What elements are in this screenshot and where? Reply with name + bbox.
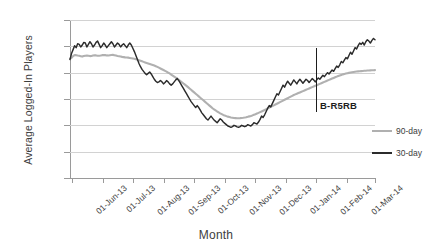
x-tick-mark [164,178,165,183]
x-tick-label: 01-Dec-13 [277,183,313,217]
x-tick-mark [255,178,256,183]
legend-label-90-day: 90-day [396,126,422,136]
x-axis-line [70,178,375,179]
x-tick-label: 01-Jun-13 [94,183,129,216]
x-axis-title: Month [0,228,432,242]
x-tick-mark [347,178,348,183]
legend-item-90-day: 90-day [372,124,432,137]
series-lines [70,20,375,178]
x-tick-mark [103,178,104,183]
legend-label-30-day: 30-day [396,148,422,158]
x-tick-mark [225,178,226,183]
annotation-label: B-R5RB [320,100,357,111]
x-tick-label: 01-Aug-13 [155,183,191,217]
chart-root: Average Logged-In Players Month 24,00026… [0,0,432,248]
x-tick-label: 01-Sep-13 [186,183,222,217]
x-tick-mark [375,178,376,183]
x-tick-mark [194,178,195,183]
legend-swatch-90-day [372,130,392,132]
y-tick-mark [64,178,70,179]
x-tick-label: 01-Jan-14 [307,183,342,216]
plot-area [70,20,375,178]
legend-item-30-day: 30-day [372,146,432,159]
y-axis-title: Average Logged-In Players [22,10,34,190]
x-tick-label: 01-Feb-14 [338,183,374,217]
x-tick-mark [72,178,73,183]
legend: 90-day 30-day [372,124,432,168]
annotation-vertical-line [316,48,317,112]
x-tick-label: 01-Nov-13 [247,183,283,217]
x-tick-mark [133,178,134,183]
legend-swatch-30-day [372,152,392,154]
x-tick-label: 01-Mar-14 [369,183,405,217]
x-tick-mark [316,178,317,183]
x-tick-mark [286,178,287,183]
x-tick-label: 01-Jul-13 [124,183,157,214]
